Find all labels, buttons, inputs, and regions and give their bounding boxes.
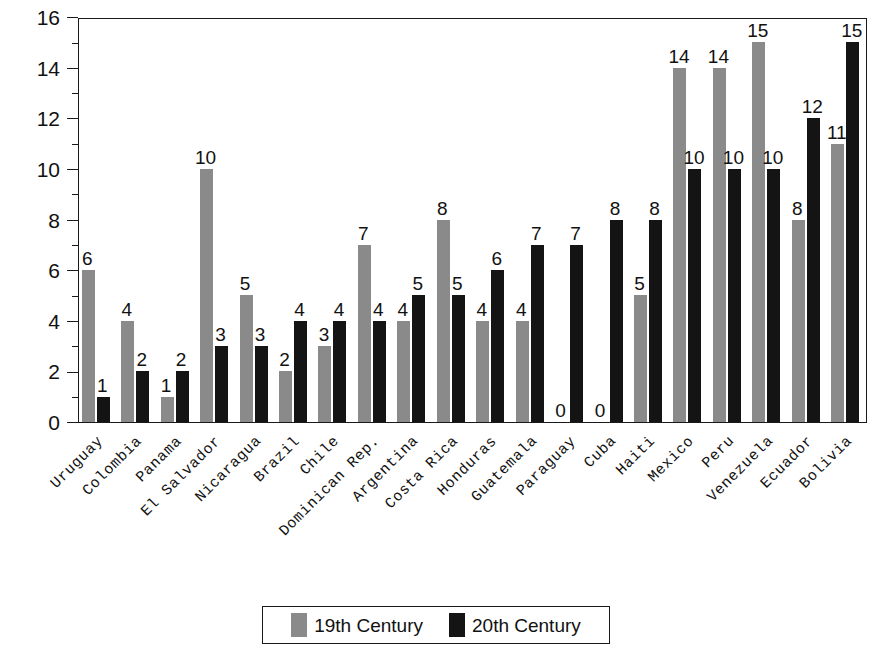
bar-value-label: 2 — [124, 350, 159, 369]
legend-label: 19th Century — [314, 616, 423, 635]
y-tick-label: 12 — [0, 108, 60, 129]
bar-panama-19th — [161, 397, 174, 422]
bar-nicaragua-20th — [255, 346, 268, 422]
bar-value-label: 7 — [519, 224, 554, 243]
bar-value-label: 1 — [149, 376, 184, 395]
bar-ecuador-20th — [807, 118, 820, 422]
bar-colombia-19th — [121, 321, 134, 422]
bar-guatemala-20th — [531, 245, 544, 422]
y-tick-label: 6 — [0, 260, 60, 281]
bar-value-label: 10 — [716, 148, 751, 167]
y-tick-major — [67, 270, 78, 271]
bar-peru-19th — [713, 68, 726, 422]
bar-paraguay-20th — [570, 245, 583, 422]
y-tick-label: 4 — [0, 311, 60, 332]
bar-value-label: 0 — [583, 401, 618, 420]
bar-value-label: 15 — [834, 21, 869, 40]
bar-el-salvador-19th — [200, 169, 213, 422]
bar-value-label: 14 — [701, 47, 736, 66]
bar-honduras-20th — [491, 270, 504, 422]
bar-value-label: 7 — [558, 224, 593, 243]
bar-value-label: 10 — [755, 148, 790, 167]
y-tick-label: 8 — [0, 210, 60, 231]
bar-ecuador-19th — [792, 220, 805, 423]
bar-value-label: 15 — [740, 21, 775, 40]
bar-brazil-20th — [294, 321, 307, 422]
bar-value-label: 12 — [795, 97, 830, 116]
bar-haiti-19th — [634, 295, 647, 422]
bar-brazil-19th — [279, 371, 292, 422]
bar-value-label: 4 — [385, 300, 420, 319]
bar-value-label: 5 — [400, 274, 435, 293]
bar-nicaragua-19th — [240, 295, 253, 422]
bar-value-label: 8 — [780, 199, 815, 218]
bar-value-label: 14 — [661, 47, 696, 66]
bar-costa-rica-19th — [437, 220, 450, 423]
bar-value-label: 10 — [676, 148, 711, 167]
bar-value-label: 4 — [504, 300, 539, 319]
bar-value-label: 5 — [622, 274, 657, 293]
y-tick-major — [67, 321, 78, 322]
bar-value-label: 7 — [346, 224, 381, 243]
bar-colombia-20th — [136, 371, 149, 422]
bar-value-label: 4 — [321, 300, 356, 319]
bar-value-label: 0 — [543, 401, 578, 420]
bar-value-label: 10 — [188, 148, 223, 167]
bar-value-label: 8 — [425, 199, 460, 218]
legend-entry[interactable]: 19th Century — [291, 613, 423, 637]
y-tick-label: 2 — [0, 361, 60, 382]
bar-mexico-19th — [673, 68, 686, 422]
bar-venezuela-19th — [752, 42, 765, 422]
y-tick-major — [67, 17, 78, 18]
legend-label: 20th Century — [472, 616, 581, 635]
y-tick-label: 10 — [0, 159, 60, 180]
bar-value-label: 4 — [464, 300, 499, 319]
bar-cuba-20th — [610, 220, 623, 423]
bar-value-label: 5 — [228, 274, 263, 293]
bar-costa-rica-20th — [452, 295, 465, 422]
bar-chile-19th — [318, 346, 331, 422]
bar-value-label: 6 — [70, 249, 105, 268]
chart-legend: 19th Century20th Century — [262, 606, 610, 644]
bar-venezuela-20th — [767, 169, 780, 422]
bar-honduras-19th — [476, 321, 489, 422]
y-tick-major — [67, 372, 78, 373]
y-tick-major — [67, 422, 78, 423]
bar-el-salvador-20th — [215, 346, 228, 422]
bar-value-label: 1 — [85, 376, 120, 395]
bar-bolivia-20th — [846, 42, 859, 422]
bar-value-label: 8 — [598, 199, 633, 218]
bar-value-label: 3 — [203, 325, 238, 344]
legend-swatch-icon — [449, 613, 465, 637]
bar-dominican-rep--20th — [373, 321, 386, 422]
bar-value-label: 5 — [440, 274, 475, 293]
bar-value-label: 11 — [819, 123, 854, 142]
bar-argentina-19th — [397, 321, 410, 422]
legend-swatch-icon — [291, 613, 307, 637]
bar-uruguay-20th — [97, 397, 110, 422]
bar-value-label: 4 — [282, 300, 317, 319]
bar-bolivia-19th — [831, 144, 844, 422]
y-tick-label: 16 — [0, 7, 60, 28]
y-tick-label: 14 — [0, 58, 60, 79]
y-tick-major — [67, 118, 78, 119]
bar-value-label: 6 — [479, 249, 514, 268]
bar-value-label: 3 — [243, 325, 278, 344]
bar-guatemala-19th — [516, 321, 529, 422]
bar-chart: Number of Cases 0246810121416 UruguayCol… — [0, 0, 881, 658]
y-tick-major — [67, 169, 78, 170]
bar-value-label: 8 — [637, 199, 672, 218]
bar-value-label: 4 — [109, 300, 144, 319]
y-tick-label: 0 — [0, 412, 60, 433]
bar-mexico-20th — [688, 169, 701, 422]
bar-haiti-20th — [649, 220, 662, 423]
y-tick-major — [67, 68, 78, 69]
bar-uruguay-19th — [82, 270, 95, 422]
legend-entry[interactable]: 20th Century — [449, 613, 581, 637]
y-tick-major — [67, 220, 78, 221]
bar-value-label: 3 — [306, 325, 341, 344]
bar-value-label: 2 — [267, 350, 302, 369]
bar-value-label: 2 — [164, 350, 199, 369]
bar-dominican-rep--19th — [358, 245, 371, 422]
bar-peru-20th — [728, 169, 741, 422]
